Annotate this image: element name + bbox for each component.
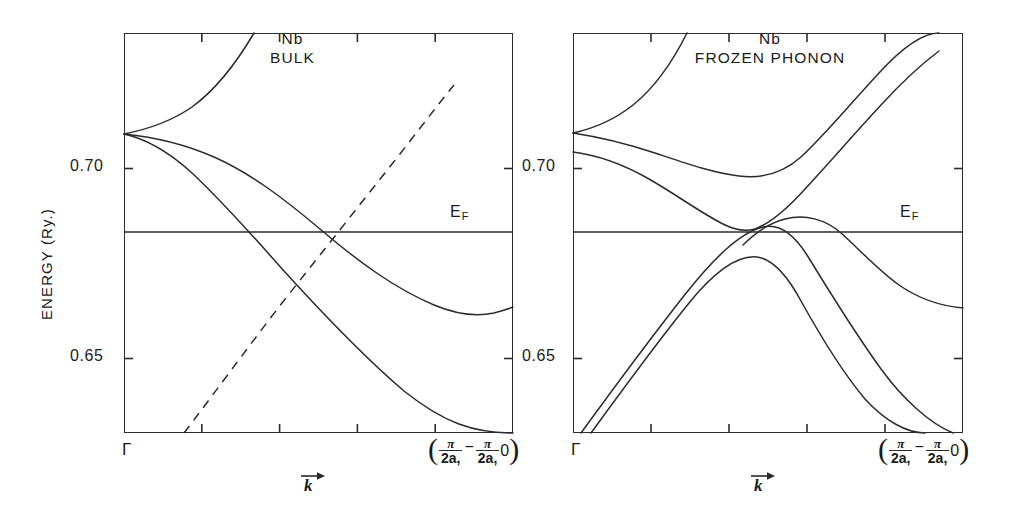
minus-symbol: −: [463, 438, 474, 456]
y-tick-label-070-fp: 0.70: [522, 157, 556, 175]
band-curve-fp-5: [581, 226, 953, 433]
band-plot-bulk: [124, 33, 513, 433]
x-tick-label-kpoint-bulk: ( π 2a, − π 2a, 0 ): [428, 436, 519, 464]
band-curve-bulk-4-dashed: [184, 85, 454, 433]
k-symbol-bulk: k: [304, 476, 326, 496]
y-axis-title: ENERGY (Ry.): [38, 208, 55, 320]
y-tick-label-065: 0.65: [70, 347, 104, 365]
pi-symbol-2: π: [482, 437, 493, 450]
y-tick-label-070: 0.70: [70, 157, 104, 175]
zero-component: 0: [500, 442, 509, 460]
panel-frozen-phonon: 0.70 0.65 Nb FROZEN PHONON EF: [520, 0, 1010, 520]
band-curve-fp-1: [573, 33, 687, 133]
denominator-2a: 2a,: [439, 450, 462, 465]
x-tick-label-kpoint-frozen-phonon: ( π 2a, − π 2a, 0 ): [878, 436, 969, 464]
band-curve-fp-2: [573, 33, 939, 177]
open-paren-fp: (: [878, 437, 888, 461]
close-paren-fp: ): [959, 437, 969, 461]
band-curve-bulk-1: [124, 33, 254, 134]
denominator-2a-2: 2a,: [476, 450, 499, 465]
pi-over-2a-first: π 2a,: [439, 437, 462, 465]
y-tick-label-065-fp: 0.65: [522, 347, 556, 365]
zero-component-fp: 0: [950, 442, 959, 460]
denominator-2a-2-fp: 2a,: [926, 450, 949, 465]
pi-over-2a-first-fp: π 2a,: [889, 437, 912, 465]
band-curve-bulk-3: [124, 134, 513, 433]
panel-bulk: ENERGY (Ry.) 0.70 0.65 Nb BULK EF: [0, 0, 520, 520]
band-curve-fp-6: [591, 257, 925, 433]
pi-symbol-2-fp: π: [932, 437, 943, 450]
close-paren: ): [509, 437, 519, 461]
pi-over-2a-second-fp: π 2a,: [926, 437, 949, 465]
figure-root: ENERGY (Ry.) 0.70 0.65 Nb BULK EF: [0, 0, 1010, 520]
pi-symbol-fp: π: [895, 437, 906, 450]
open-paren: (: [428, 437, 438, 461]
k-symbol-frozen-phonon: k: [754, 476, 776, 496]
x-tick-label-gamma-bulk: Γ: [122, 440, 131, 460]
band-curve-fp-3: [573, 51, 939, 230]
minus-symbol-fp: −: [913, 438, 924, 456]
x-axis-title-bulk: k: [300, 470, 326, 496]
band-curve-bulk-2: [124, 134, 513, 315]
band-curve-fp-4: [743, 217, 963, 308]
denominator-2a-fp: 2a,: [889, 450, 912, 465]
pi-over-2a-second: π 2a,: [476, 437, 499, 465]
pi-symbol: π: [445, 437, 456, 450]
band-plot-frozen-phonon: [573, 33, 963, 433]
x-axis-title-frozen-phonon: k: [750, 470, 776, 496]
x-tick-label-gamma-frozen-phonon: Γ: [571, 440, 580, 460]
